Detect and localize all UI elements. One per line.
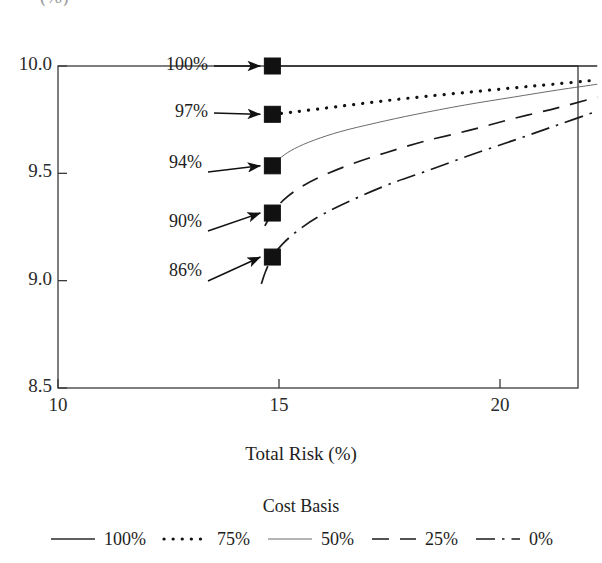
series-line-0pct <box>261 111 597 284</box>
series-marker-50pct <box>264 158 280 174</box>
annotation-arrow-90pct <box>208 213 260 231</box>
x-axis-title: Total Risk (%) <box>0 443 602 465</box>
annotation-arrow-86pct <box>208 257 260 281</box>
series-marker-0pct <box>264 249 280 265</box>
legend-swatch-solid-icon <box>49 532 97 546</box>
legend-entry-50pct[interactable]: 50% <box>266 530 354 548</box>
annotation-label-100pct: 100% <box>146 54 208 75</box>
legend-swatch-dotted-icon <box>162 532 210 546</box>
legend-label: 0% <box>529 530 553 548</box>
annotation-label-90pct: 90% <box>140 211 202 232</box>
legend-entry-100pct[interactable]: 100% <box>49 530 146 548</box>
x-tick-label: 20 <box>470 394 530 416</box>
plot-canvas <box>0 0 602 563</box>
annotation-label-94pct: 94% <box>140 152 202 173</box>
legend-swatch-dashed-icon <box>370 532 418 546</box>
annotation-label-97pct: 97% <box>146 101 208 122</box>
legend-swatch-thin-solid-icon <box>266 532 314 546</box>
annotation-label-86pct: 86% <box>140 260 202 281</box>
plot-frame <box>58 66 578 388</box>
series-line-75pct <box>272 80 597 114</box>
series-marker-100pct <box>264 58 280 74</box>
series-marker-25pct <box>264 205 280 221</box>
series-line-25pct <box>265 97 597 226</box>
y-tick-label: 9.5 <box>0 160 52 182</box>
legend-entry-75pct[interactable]: 75% <box>162 530 250 548</box>
chart-figure: (%) 10.09.59.08.5101520 100%97%94%90%86%… <box>0 0 602 563</box>
x-tick-label: 10 <box>28 394 88 416</box>
y-tick-label: 9.0 <box>0 268 52 290</box>
y-tick-label: 10.0 <box>0 53 52 75</box>
legend: 100%75%50%25%0% <box>0 530 602 548</box>
legend-entry-0pct[interactable]: 0% <box>474 530 553 548</box>
legend-swatch-dash-dot-icon <box>474 532 522 546</box>
x-tick-label: 15 <box>249 394 309 416</box>
legend-title: Cost Basis <box>0 496 602 517</box>
legend-entry-25pct[interactable]: 25% <box>370 530 458 548</box>
legend-label: 25% <box>425 530 458 548</box>
legend-label: 75% <box>217 530 250 548</box>
legend-label: 50% <box>321 530 354 548</box>
series-marker-75pct <box>264 106 280 122</box>
annotation-arrow-94pct <box>208 166 260 172</box>
annotation-arrow-97pct <box>214 113 260 114</box>
legend-label: 100% <box>104 530 146 548</box>
